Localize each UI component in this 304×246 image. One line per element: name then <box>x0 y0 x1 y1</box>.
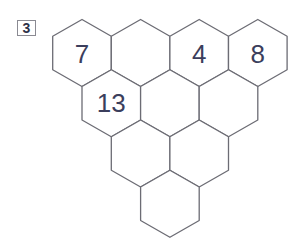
hex-pyramid-grid: 7 4 8 13 <box>0 0 304 246</box>
cell-value: 4 <box>192 39 206 69</box>
cell-value: 13 <box>97 88 126 118</box>
cell-value: 8 <box>251 39 265 69</box>
cell-value: 7 <box>75 39 89 69</box>
